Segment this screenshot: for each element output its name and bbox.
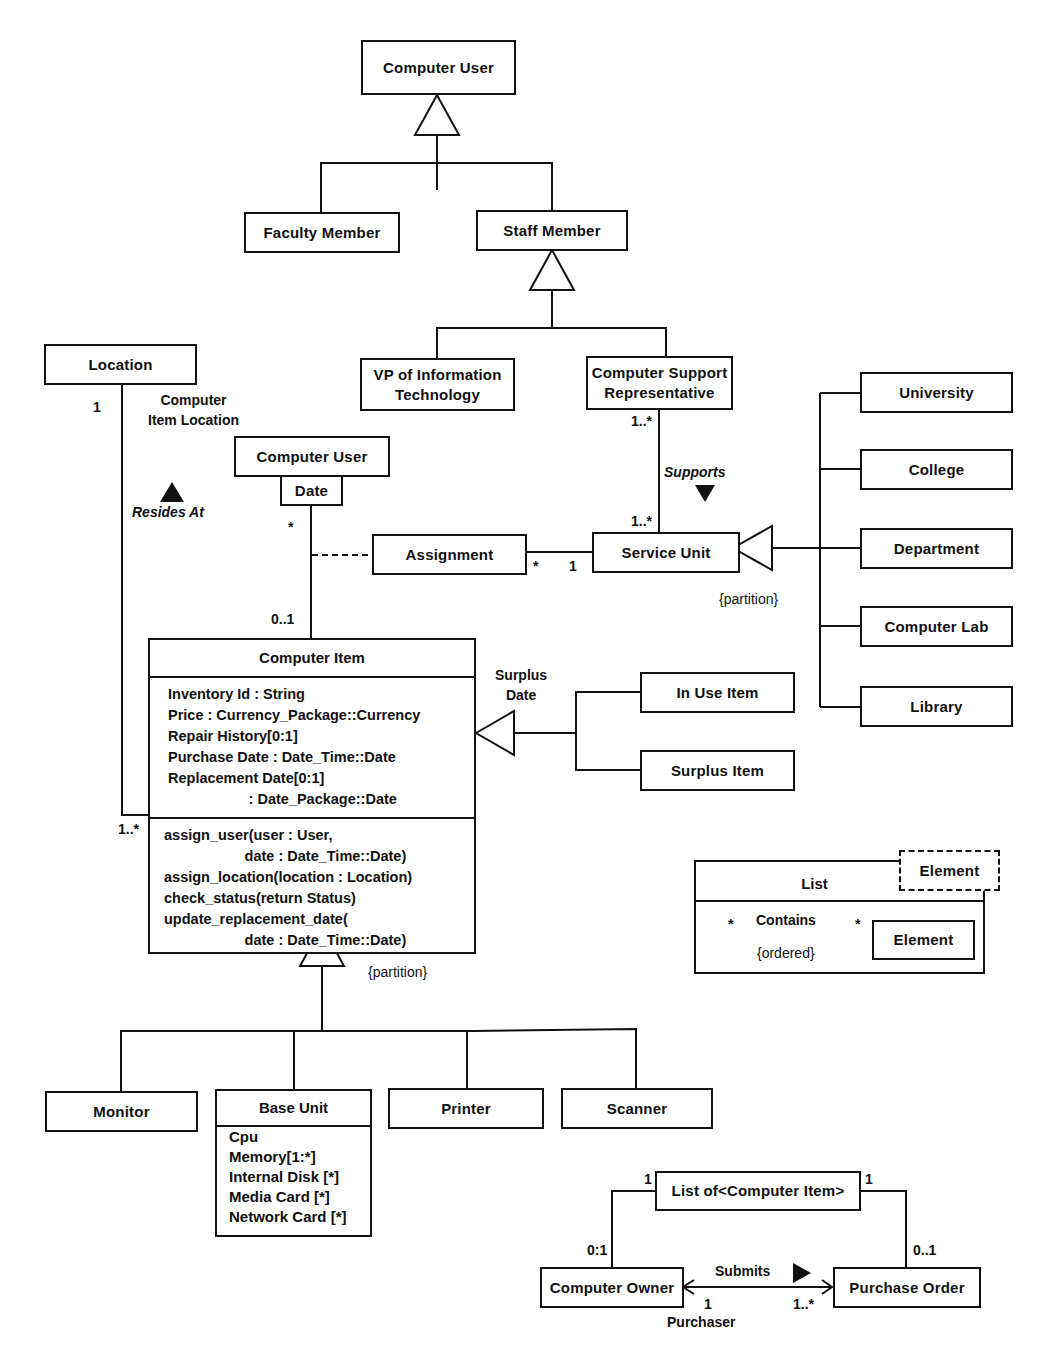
class-name: Element	[894, 930, 954, 950]
class-computer-item[interactable]: Computer Item Inventory Id : String Pric…	[148, 638, 476, 954]
attribute: Network Card [*]	[229, 1207, 370, 1227]
class-name: University	[899, 383, 974, 403]
operation: date : Date_Time::Date)	[164, 846, 474, 867]
class-university[interactable]: University	[860, 372, 1013, 413]
class-college[interactable]: College	[860, 449, 1013, 490]
class-computer-user[interactable]: Computer User	[361, 40, 516, 95]
association-name-computer-item-location: Computer Item Location	[148, 390, 239, 430]
class-name: Library	[910, 697, 962, 717]
class-name: Faculty Member	[264, 223, 381, 243]
class-faculty-member[interactable]: Faculty Member	[244, 212, 400, 253]
attribute: Price : Currency_Package::Currency	[168, 705, 474, 726]
class-computer-user-qualified[interactable]: Computer User	[234, 436, 390, 477]
operation: assign_user(user : User,	[164, 825, 474, 846]
attribute: Cpu	[229, 1127, 370, 1147]
role-name-purchaser: Purchaser	[667, 1313, 735, 1331]
mult-label: 1..*	[793, 1295, 814, 1313]
class-element[interactable]: Element	[872, 920, 975, 960]
template-parameter-element[interactable]: Element	[899, 850, 1000, 891]
class-name: Computer Lab	[884, 617, 988, 637]
class-name: Location	[88, 355, 152, 375]
class-service-unit[interactable]: Service Unit	[592, 532, 740, 573]
class-name: Computer Support Representative	[592, 363, 728, 403]
attributes-compartment: Inventory Id : String Price : Currency_P…	[150, 678, 474, 817]
mult-label: *	[855, 915, 860, 933]
mult-label: 0..1	[271, 610, 294, 628]
class-scanner[interactable]: Scanner	[561, 1088, 713, 1129]
class-name: VP of Information Technology	[373, 365, 501, 405]
class-name: In Use Item	[676, 683, 758, 703]
class-monitor[interactable]: Monitor	[45, 1091, 198, 1132]
attribute: Internal Disk [*]	[229, 1167, 370, 1187]
mult-label: 1	[704, 1295, 712, 1313]
class-library[interactable]: Library	[860, 686, 1013, 727]
mult-label: *	[533, 557, 538, 575]
mult-label: 1..*	[631, 512, 652, 530]
mult-label: 1	[644, 1170, 652, 1188]
association-name-resides-at: Resides At	[132, 503, 204, 521]
attribute: Purchase Date : Date_Time::Date	[168, 747, 474, 768]
constraint-partition-computer-item: {partition}	[368, 963, 427, 981]
association-name: Contains	[756, 911, 816, 929]
class-name: Assignment	[406, 545, 494, 565]
attributes-compartment: Cpu Memory[1:*] Internal Disk [*] Media …	[217, 1127, 370, 1231]
class-computer-owner[interactable]: Computer Owner	[540, 1267, 684, 1308]
operation: check_status(return Status)	[164, 888, 474, 909]
class-list-of-computer-item[interactable]: List of<Computer Item>	[655, 1171, 861, 1211]
class-name: Printer	[441, 1099, 491, 1119]
parameter-name: Element	[920, 861, 980, 881]
qualifier-date[interactable]: Date	[280, 475, 343, 506]
operation: assign_location(location : Location)	[164, 867, 474, 888]
mult-label: 0:1	[587, 1241, 607, 1259]
class-vp-information-technology[interactable]: VP of Information Technology	[360, 358, 515, 411]
class-base-unit[interactable]: Base Unit Cpu Memory[1:*] Internal Disk …	[215, 1089, 372, 1237]
class-name: Computer User	[383, 58, 494, 78]
class-name: Scanner	[607, 1099, 668, 1119]
class-name: Computer User	[257, 447, 368, 467]
class-name: Surplus Item	[671, 761, 764, 781]
class-staff-member[interactable]: Staff Member	[476, 210, 628, 251]
constraint-label: {ordered}	[757, 944, 815, 962]
mult-label: 1	[569, 557, 577, 575]
mult-label: *	[728, 915, 733, 933]
class-name: Computer Item	[150, 640, 474, 678]
constraint-partition-service-unit: {partition}	[719, 590, 778, 608]
operations-compartment: assign_user(user : User, date : Date_Tim…	[150, 817, 474, 955]
operation: update_replacement_date(	[164, 909, 474, 930]
mult-label: 0..1	[913, 1241, 936, 1259]
attribute: Memory[1:*]	[229, 1147, 370, 1167]
association-name-supports: Supports	[664, 463, 725, 481]
discriminator-surplus-date: Surplus Date	[495, 665, 547, 705]
class-name: Department	[894, 539, 979, 559]
class-printer[interactable]: Printer	[388, 1088, 544, 1129]
class-computer-lab[interactable]: Computer Lab	[860, 606, 1013, 647]
class-name: Service Unit	[621, 543, 710, 563]
class-name: Purchase Order	[849, 1278, 964, 1298]
class-name: College	[909, 460, 965, 480]
class-name: Computer Owner	[550, 1278, 674, 1298]
attribute: : Date_Package::Date	[168, 789, 474, 810]
class-computer-support-representative[interactable]: Computer Support Representative	[586, 356, 733, 410]
class-name: Staff Member	[503, 221, 600, 241]
qualifier-name: Date	[295, 481, 328, 501]
association-class-assignment[interactable]: Assignment	[372, 534, 527, 575]
class-name: Monitor	[93, 1102, 149, 1122]
attribute: Media Card [*]	[229, 1187, 370, 1207]
mult-label: 1..*	[631, 412, 652, 430]
operation: date : Date_Time::Date)	[164, 930, 474, 951]
class-surplus-item[interactable]: Surplus Item	[640, 750, 795, 791]
attribute: Repair History[0:1]	[168, 726, 474, 747]
mult-label: 1..*	[118, 820, 139, 838]
class-name: List of<Computer Item>	[672, 1181, 845, 1201]
attribute: Replacement Date[0:1]	[168, 768, 474, 789]
mult-label: *	[288, 518, 293, 536]
mult-label: 1	[865, 1170, 873, 1188]
mult-label: 1	[93, 398, 101, 416]
class-location[interactable]: Location	[44, 344, 197, 385]
class-name: Base Unit	[217, 1091, 370, 1127]
resides-at-direction-icon	[160, 482, 184, 502]
supports-direction-icon	[695, 485, 715, 502]
class-in-use-item[interactable]: In Use Item	[640, 672, 795, 713]
class-purchase-order[interactable]: Purchase Order	[833, 1267, 981, 1308]
class-department[interactable]: Department	[860, 528, 1013, 569]
